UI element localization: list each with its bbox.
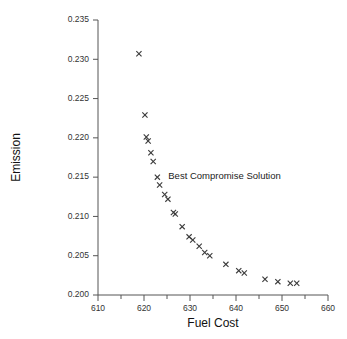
data-point bbox=[294, 281, 299, 286]
data-point bbox=[190, 237, 195, 242]
y-axis-ticks: 0.2000.2050.2100.2150.2200.2250.2300.235 bbox=[68, 14, 98, 299]
y-tick-label: 0.230 bbox=[68, 54, 90, 64]
data-point bbox=[262, 277, 267, 282]
x-tick-label: 630 bbox=[183, 303, 197, 313]
data-point bbox=[136, 51, 141, 56]
data-point bbox=[165, 197, 170, 202]
x-tick-label: 650 bbox=[275, 303, 289, 313]
data-point bbox=[275, 279, 280, 284]
x-axis-title: Fuel Cost bbox=[187, 316, 239, 330]
chart-canvas: 0.2000.2050.2100.2150.2200.2250.2300.235… bbox=[0, 0, 347, 339]
data-point bbox=[151, 159, 156, 164]
data-point bbox=[288, 281, 293, 286]
x-tick-label: 660 bbox=[321, 303, 335, 313]
data-point bbox=[202, 250, 207, 255]
data-point bbox=[157, 182, 162, 187]
y-tick-label: 0.200 bbox=[68, 289, 90, 299]
data-point bbox=[148, 150, 153, 155]
data-point bbox=[155, 175, 160, 180]
y-tick-label: 0.205 bbox=[68, 250, 90, 260]
data-point bbox=[142, 112, 147, 117]
y-tick-label: 0.225 bbox=[68, 93, 90, 103]
x-tick-label: 610 bbox=[91, 303, 105, 313]
data-point bbox=[207, 253, 212, 258]
y-tick-label: 0.210 bbox=[68, 211, 90, 221]
data-point bbox=[162, 192, 167, 197]
data-point-group bbox=[136, 51, 299, 286]
y-tick-label: 0.235 bbox=[68, 14, 90, 24]
data-point bbox=[236, 268, 241, 273]
y-axis-title: Emission bbox=[9, 133, 23, 182]
emission-vs-fuel-cost-scatter: 0.2000.2050.2100.2150.2200.2250.2300.235… bbox=[0, 0, 347, 339]
x-tick-label: 620 bbox=[137, 303, 151, 313]
data-point bbox=[173, 211, 178, 216]
x-axis-ticks: 610620630640650660 bbox=[91, 295, 335, 313]
chart-annotation: Best Compromise Solution bbox=[168, 170, 280, 181]
data-point bbox=[223, 262, 228, 267]
axis-spines bbox=[98, 20, 328, 295]
y-tick-label: 0.220 bbox=[68, 132, 90, 142]
data-point bbox=[180, 224, 185, 229]
y-tick-label: 0.215 bbox=[68, 171, 90, 181]
data-point bbox=[242, 270, 247, 275]
x-tick-label: 640 bbox=[229, 303, 243, 313]
annotation-group: Best Compromise Solution bbox=[168, 170, 280, 181]
data-point bbox=[197, 244, 202, 249]
